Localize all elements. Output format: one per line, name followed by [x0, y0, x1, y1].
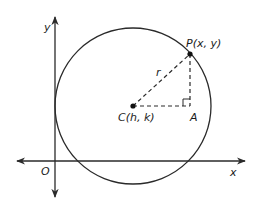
- center-point: [130, 103, 135, 108]
- point-a-label: A: [189, 111, 198, 124]
- point-p: [187, 51, 192, 56]
- x-axis-label: x: [229, 166, 237, 179]
- center-label: C(h, k): [118, 111, 155, 124]
- radius-label: r: [156, 66, 162, 79]
- right-angle-marker: [183, 99, 190, 106]
- y-axis-label: y: [43, 21, 51, 34]
- point-p-label: P(x, y): [186, 37, 221, 50]
- origin-label: O: [41, 165, 50, 178]
- radius-line: [133, 54, 190, 106]
- circle-equation-diagram: y x O P(x, y) r C(h, k) A: [0, 0, 261, 202]
